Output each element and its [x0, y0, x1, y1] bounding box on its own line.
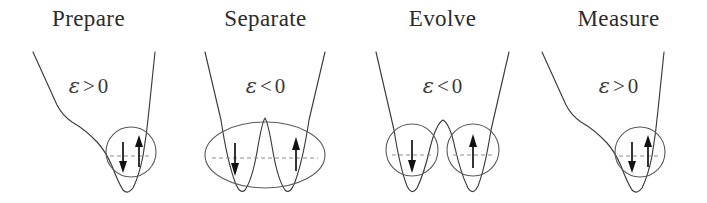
spin-down-arrow [231, 143, 239, 176]
spin-down-arrow [628, 142, 636, 173]
protocol-diagram: Prepare ε>0 Separate ε<0 [0, 0, 707, 203]
panel-evolve: Evolve ε<0 [354, 0, 531, 203]
panel-prepare: Prepare ε>0 [0, 0, 177, 203]
spin-down-arrow [408, 140, 416, 173]
panel-measure: Measure ε>0 [530, 0, 707, 203]
well-graphic-measure [530, 0, 707, 203]
spin-up-arrow [469, 134, 477, 168]
wavefunction-blob [106, 127, 156, 177]
wavefunction-blob [615, 127, 665, 177]
spin-down-arrow [119, 142, 127, 173]
well-graphic-prepare [0, 0, 177, 203]
spin-up-arrow [292, 137, 300, 171]
well-graphic-evolve [354, 0, 531, 203]
potential-curve [33, 52, 155, 192]
well-graphic-separate [177, 0, 354, 203]
panel-separate: Separate ε<0 [177, 0, 354, 203]
delocalized-wavefunction-blob [205, 122, 325, 188]
potential-curve [542, 52, 664, 192]
